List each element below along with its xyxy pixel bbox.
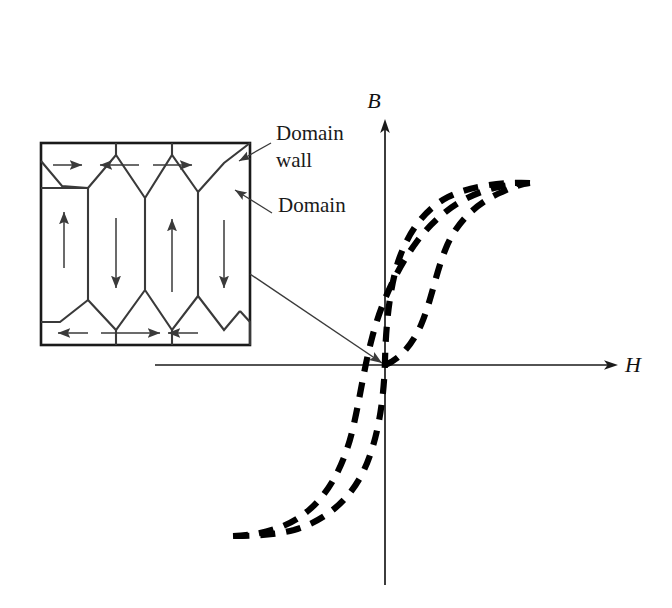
ascending-branch [233,183,530,536]
h-axis-label: H [624,352,642,377]
domain-wall-label-line2: wall [276,148,312,172]
annotation-group: Domain wall Domain [235,121,382,363]
hysteresis-figure: B H [0,0,672,608]
hysteresis-loop-group [233,183,530,536]
b-axis-label: B [367,88,380,113]
domain-label: Domain [278,193,346,217]
domain-wall-label-line1: Domain [276,121,344,145]
descending-branch [233,183,530,536]
domain-structure-inset [41,143,250,345]
initial-magnetization-curve [385,183,530,365]
figure-root: B H [0,0,672,608]
inset-to-origin-pointer [250,274,382,363]
